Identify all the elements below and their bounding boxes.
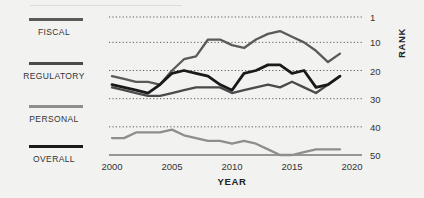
- chart-container: FISCAL REGULATORY PERSONAL OVERALL 11020…: [0, 0, 424, 198]
- x-tick-2010: 2010: [221, 161, 242, 172]
- x-tick-2020: 2020: [341, 161, 362, 172]
- x-axis-ticks: 20002005201020152020: [0, 0, 424, 198]
- x-tick-2005: 2005: [161, 161, 182, 172]
- x-tick-2015: 2015: [281, 161, 302, 172]
- x-tick-2000: 2000: [101, 161, 122, 172]
- y-axis-title: RANK: [396, 28, 407, 58]
- x-axis-title: YEAR: [112, 176, 352, 187]
